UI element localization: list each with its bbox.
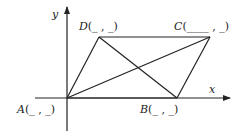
point-d-name: D: [78, 20, 88, 33]
point-a-coord: (_ , _): [25, 103, 55, 116]
point-a-name: A: [16, 103, 25, 116]
point-b-name: B: [139, 103, 148, 116]
point-c-coord: (____ , _): [182, 20, 229, 33]
point-b-coord: (_ , _): [148, 103, 178, 116]
edge-bc: [177, 37, 210, 98]
edge-da: [67, 37, 99, 98]
diagonal-bd: [99, 37, 177, 98]
point-label-a: A(_ , _): [16, 103, 55, 116]
y-axis-label: y: [51, 8, 59, 21]
point-label-c: C(____ , _): [174, 20, 229, 33]
coordinate-diagram: x y D(_ , _) C(____ , _) A(_ , _) B(_ , …: [0, 0, 250, 136]
x-axis-label: x: [209, 83, 216, 96]
point-label-b: B(_ , _): [139, 103, 178, 116]
point-d-coord: (_ , _): [88, 20, 118, 33]
point-label-d: D(_ , _): [78, 20, 118, 33]
